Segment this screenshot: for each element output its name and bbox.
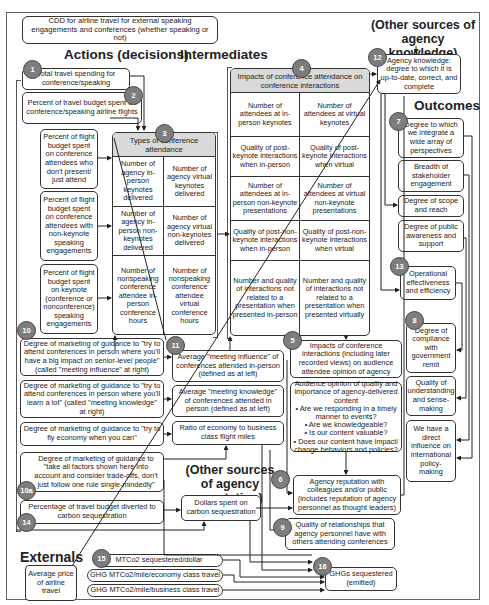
table-3-types-of-attendance: Types of conference attendance Number of… (112, 132, 216, 335)
t4-cell: Number and quality of interactions not r… (300, 261, 369, 335)
audience-opinion-lead: Audience opinion of quality and importan… (293, 380, 399, 405)
table-4-impacts-of-attendance: Impacts of conference attendance on conf… (230, 68, 370, 336)
badge-4: 4 (292, 59, 311, 78)
t4-cell: Quality of post-non-keynote interactions… (231, 221, 300, 261)
badge-3: 3 (155, 124, 174, 143)
node-13-operational-effectiveness: Operational effectiveness and efficiency (400, 266, 456, 300)
node-5-impacts-of-interactions: Impacts of conference interactions (incl… (290, 340, 402, 378)
outcome-government-remit: Degree of compliance with government rem… (406, 323, 456, 373)
header-actions: Actions (decisions) (64, 47, 189, 62)
badge-12: 12 (368, 48, 387, 67)
outcome-understanding: Quality of understanding and sense-makin… (406, 376, 456, 416)
badge-10a: 10a (17, 481, 36, 500)
t4-cell: Number of attendees at in-person keynote… (231, 93, 300, 137)
t4-cell: Quality of post-keynote interactions whe… (300, 137, 369, 177)
audience-opinion: Audience opinion of quality and importan… (290, 382, 402, 452)
badge-7: 7 (389, 112, 408, 131)
node-6-agency-reputation: Agency reputation with colleagues and/or… (293, 475, 401, 515)
audience-bullet: • Are we responding in a timely manner t… (293, 405, 399, 421)
t4-cell: Number of attendees at virtual keynotes (300, 93, 369, 137)
guidance-consider-tradeoffs: Degree of marketing of guidance to "take… (20, 452, 164, 492)
avg-meeting-knowledge: Average "meeting knowledge" of conferenc… (172, 385, 284, 417)
guidance-meeting-influence: Degree of marketing of guidance to "try … (20, 338, 164, 376)
badge-6: 6 (271, 470, 290, 489)
t4-cell: Number and quality of interactions not r… (231, 261, 300, 335)
node-16-ghgs-sequestered: GHGs sequestered (emitted) (325, 567, 397, 591)
budget-keynote: Percent of flight budget spent on keynot… (40, 264, 98, 334)
node-12-agency-knowledge: Agency knowledge: degree to which it is … (377, 54, 461, 94)
budget-non-keynote: Percent of flight budget spent on confer… (40, 191, 98, 261)
header-outcomes: Outcomes (414, 98, 480, 113)
t3-cell: Number of agency in-person non-keynotes … (113, 207, 164, 256)
node-9-relationships: Quality of relationships that agency per… (285, 518, 395, 550)
ratio-economy-business: Ratio of economy to business class fligh… (172, 421, 284, 445)
budget-just-attend: Percent of flight budget spent on confer… (40, 129, 98, 189)
outcome-public-awareness: Degree of public awareness and support (398, 220, 464, 252)
badge-13: 13 (390, 257, 409, 276)
header-externals: Externals (20, 550, 83, 565)
badge-16: 16 (313, 557, 332, 576)
t3-cell: Number of agency virtual keynotes delive… (164, 157, 215, 207)
badge-2: 2 (124, 86, 143, 105)
t3-cell: Number of agency virtual non-keynotes de… (164, 207, 215, 256)
badge-14: 14 (17, 513, 36, 532)
node-14-budget-carbon: Percentage of travel budget diverted to … (20, 500, 164, 524)
avg-meeting-influence: Average "meeting influence" of conferenc… (172, 350, 284, 382)
outcome-integrate-perspectives: Degree to which we integrate a wide arra… (398, 118, 464, 158)
t3-cell: Number of agency in-person keynotes deli… (113, 157, 164, 207)
outcome-stakeholder-breadth: Breadth of stakeholder engagement (398, 160, 464, 192)
dollars-carbon-sequestration: Dollars spent on carbon sequestration (181, 495, 261, 521)
badge-5: 5 (283, 331, 302, 350)
outcome-scope-reach: Degree of scope and reach (398, 195, 464, 217)
audience-bullet: • Does our content have impact/ change b… (293, 438, 399, 454)
t4-cell: Quality of post-non-keynote interactions… (300, 221, 369, 261)
t4-cell: Quality of post-keynote interactions whe… (231, 137, 300, 177)
badge-9: 9 (273, 518, 292, 537)
badge-15: 15 (92, 549, 111, 568)
badge-8: 8 (405, 311, 424, 330)
diagram-title: CDD for airline travel for external spea… (22, 16, 218, 44)
external-ghg-economy: GHG MTCo2/mile/economy class travel (87, 569, 223, 582)
t4-cell: Number of attendees at virtual non-keyno… (300, 177, 369, 221)
t3-cell: Number of nonspeaking conference attende… (164, 256, 215, 335)
guidance-fly-economy: Degree of marketing of guidance to "try … (20, 422, 164, 446)
header-intermediates: Intermediates (180, 47, 268, 62)
outcome-policy-influence: We have a direct influence on internatio… (406, 420, 456, 482)
badge-11: 11 (166, 336, 185, 355)
badge-1: 1 (23, 60, 42, 79)
external-mtco2-per-dollar: MTCo2 sequestered/dollar (95, 554, 223, 567)
t3-cell: Number of nonspeaking conference attende… (113, 256, 164, 335)
external-ghg-business: GHG MTCo2/mile/business class travel (87, 584, 223, 597)
external-avg-airline-price: Average price of airline travel (25, 565, 77, 601)
guidance-meeting-knowledge: Degree of marketing of guidance to "try … (20, 380, 164, 418)
badge-10: 10 (17, 321, 36, 340)
t4-cell: Number of attendees at in-person non-key… (231, 177, 300, 221)
